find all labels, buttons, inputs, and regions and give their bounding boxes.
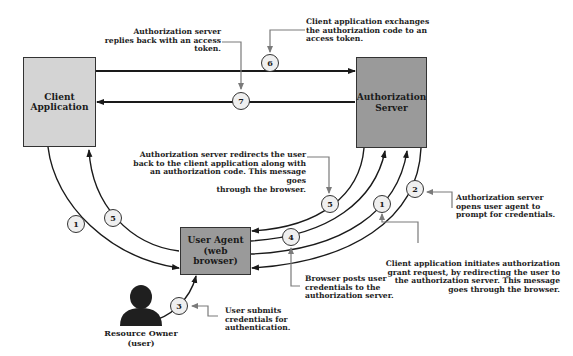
annotation-step4: Browser posts user credentials to the au… (305, 275, 405, 301)
annotation-step3-line: authentication. (225, 324, 305, 333)
step-badge-7: 7 (232, 92, 250, 110)
client-application-box: Client Application (23, 57, 96, 147)
callout-step2 (427, 192, 452, 208)
annotation-step3: User submits credentials for authenticat… (225, 307, 305, 333)
annotation-step5-line: through the browser. (128, 186, 306, 195)
annotation-step1-line: goes through the browser. (384, 286, 560, 295)
person-icon (120, 285, 162, 326)
step-badge-3: 3 (170, 297, 188, 315)
annotation-step1: Client application initiates authorizati… (384, 260, 560, 295)
step-badge-6: 6 (261, 54, 279, 72)
annotation-step7-line: token. (100, 45, 221, 54)
step-badge-1-client: 1 (67, 215, 85, 233)
annotation-step7: Authorization server replies back with a… (100, 28, 221, 54)
server-label-2: Server (357, 103, 426, 113)
user-agent-box: User Agent (web browser) (180, 227, 251, 275)
step-badge-5-client: 5 (104, 209, 122, 227)
annotation-step6-line: access token. (306, 35, 456, 44)
callout-step7 (222, 42, 241, 89)
annotation-step2-line: prompt for credentials. (456, 211, 571, 220)
server-label-1: Authorization (357, 92, 426, 102)
callout-step1 (382, 214, 418, 243)
user-agent-label-2: (web browser) (181, 246, 250, 267)
annotation-step5: Authorization server redirects the user … (128, 151, 306, 195)
step-badge-5-server: 5 (321, 195, 339, 213)
callout-step6 (270, 30, 305, 52)
authorization-server-box: Authorization Server (356, 57, 427, 148)
client-label-2: Application (31, 102, 89, 112)
resource-owner-label: Resource Owner (user) (96, 329, 186, 348)
annotation-step6: Client application exchanges the authori… (306, 18, 456, 44)
resource-owner-line2: (user) (96, 339, 186, 349)
client-label-1: Client (31, 92, 89, 102)
callout-step4 (291, 248, 300, 286)
callout-step5 (307, 157, 329, 193)
user-agent-label-1: User Agent (181, 235, 250, 245)
annotation-step5-line: an authorization code. This message goes (128, 168, 306, 185)
annotation-step4-line: authorization server. (305, 292, 405, 301)
step-badge-2: 2 (406, 180, 424, 198)
annotation-step2: Authorization server opens user agent to… (456, 194, 571, 220)
step-badge-1-server: 1 (373, 195, 391, 213)
step-badge-4: 4 (282, 228, 300, 246)
callout-step3 (192, 306, 218, 316)
